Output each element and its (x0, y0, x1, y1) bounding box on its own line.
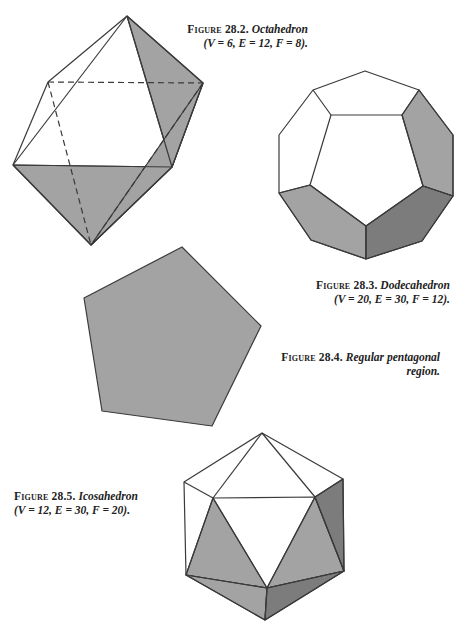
figure-title: Regular pentagonal (346, 351, 440, 363)
figures-canvas (0, 0, 460, 621)
figure-params: (V = 12, E = 30, F = 20). (14, 503, 138, 517)
pentagonal-region (84, 247, 261, 426)
caption-figure-28-4: Figure 28.4. Regular pentagonal region. (268, 350, 440, 378)
dodecahedron-face-right (402, 90, 453, 196)
figure-title: Octahedron (252, 23, 308, 35)
figure-title-continued: region. (268, 364, 440, 378)
dodecahedron-face-bottom-right (366, 186, 453, 259)
figure-label: Figure 28.5. (14, 490, 76, 502)
figure-label: Figure 28.3. (316, 279, 378, 291)
figure-params: (V = 20, E = 30, F = 12). (290, 292, 450, 306)
caption-figure-28-5: Figure 28.5. Icosahedron (V = 12, E = 30… (14, 489, 138, 517)
figure-label: Figure 28.4. (281, 351, 343, 363)
figure-params: (V = 6, E = 12, F = 8). (170, 36, 308, 50)
dodecahedron-drawing (279, 71, 453, 259)
figure-title: Dodecahedron (380, 279, 450, 291)
icosahedron-face-left (186, 498, 267, 588)
icosahedron-drawing (184, 433, 344, 620)
octahedron-drawing (13, 16, 203, 245)
figure-title: Icosahedron (78, 490, 137, 502)
octahedron-face-right-lower (91, 83, 203, 245)
figure-label: Figure 28.2. (187, 23, 249, 35)
dodecahedron-face-bottom-left (279, 185, 366, 259)
caption-figure-28-2: Figure 28.2. Octahedron (V = 6, E = 12, … (170, 22, 308, 50)
caption-figure-28-3: Figure 28.3. Dodecahedron (V = 20, E = 3… (290, 278, 450, 306)
